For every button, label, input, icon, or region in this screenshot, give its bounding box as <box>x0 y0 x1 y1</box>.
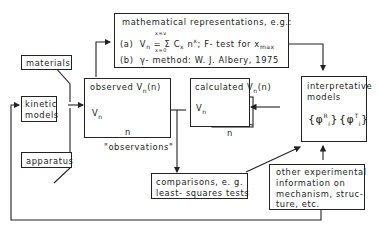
math-formula-a: (a) Vn = Σ Cx nx; F- test for xmax <box>120 38 275 50</box>
math-title: mathematical representations, e.g.: <box>122 18 292 26</box>
phi-r-close: } <box>331 113 339 126</box>
other-info-line2: information on <box>276 179 345 187</box>
math-formula-b: (b) γ- method: W. J. Albery, 1975 <box>120 56 279 64</box>
math-representations-box: mathematical representations, e.g.: (a) … <box>114 13 289 68</box>
phi-t-open: {φ <box>339 113 354 126</box>
kinetic-models-line2: models <box>25 111 59 119</box>
formula-b-text: - method: W. J. Albery, 1975 <box>146 55 279 65</box>
calculated-title: calculated Vn(n) <box>195 83 271 94</box>
calculated-title-text: calculated V <box>195 82 253 92</box>
formula-a-prefix: (a) <box>120 39 133 49</box>
observations-caption: "observations" <box>104 143 173 151</box>
materials-label: materials <box>26 59 70 67</box>
apparatus-box: apparatus <box>21 152 72 168</box>
phi-r-sup: R <box>323 112 328 119</box>
phi-r-open: {φ <box>308 113 323 126</box>
calculated-title-tail: (n) <box>258 82 272 92</box>
materials-box: materials <box>21 55 72 70</box>
formula-a-tail-sub: max <box>260 43 275 50</box>
comparisons-line1: comparisons, e. g. <box>156 178 243 186</box>
comparisons-box: comparisons, e. g. least- squares tests <box>151 173 248 199</box>
other-info-box: other experimental information on mechan… <box>269 164 365 210</box>
observed-ylabel: Vn <box>92 109 103 120</box>
interpretative-line1: interpretative <box>307 82 372 90</box>
other-info-line4: ture, etc. <box>276 200 320 208</box>
phi-r-set: {φRi} <box>308 113 338 127</box>
phi-t-set: {φTi} <box>339 113 369 127</box>
phi-t-close: } <box>361 113 369 126</box>
phi-t-sup: T <box>354 112 358 119</box>
observed-title-text: observed V <box>90 82 143 92</box>
other-info-line1: other experimental <box>276 168 367 176</box>
calculated-box: calculated Vn(n) Vn n <box>190 78 250 127</box>
kinetic-models-box: kinetic models <box>21 96 57 122</box>
formula-a-n: n <box>184 39 193 49</box>
observed-ylabel-sub: n <box>98 113 102 120</box>
observed-title-tail: (n) <box>147 82 161 92</box>
sum-upper-limit: x=ν <box>155 31 167 36</box>
sum-lower-limit: x=0 <box>155 48 167 53</box>
other-info-line3: mechanism, struc- <box>276 190 363 198</box>
observed-box: observed Vn(n) Vn n <box>84 78 171 138</box>
observed-xlabel: n <box>125 128 131 136</box>
interpretative-line2: models <box>307 93 341 101</box>
apparatus-label: apparatus <box>26 157 73 165</box>
formula-a-tail: ; F- test for x <box>198 39 260 49</box>
kinetic-models-line1: kinetic <box>25 100 57 108</box>
formula-a-lhs-sub: n <box>146 43 150 50</box>
observed-title: observed Vn(n) <box>90 83 161 94</box>
calculated-ylabel-sub: n <box>202 108 206 115</box>
calculated-xlabel: n <box>227 129 233 137</box>
comparisons-line2: least- squares tests <box>156 189 249 197</box>
interpretative-models-box: interpretative models {φRi} {φTi} <box>301 76 367 142</box>
formula-b-prefix: (b) <box>120 55 134 65</box>
calculated-ylabel: Vn <box>196 104 207 115</box>
